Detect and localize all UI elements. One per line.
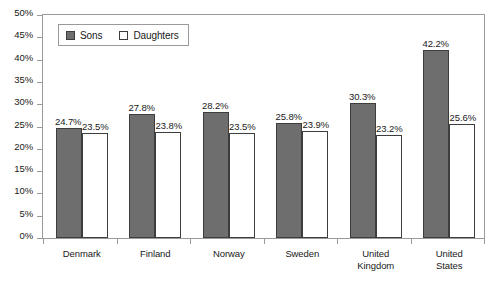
y-axis-tick-label: 5% — [19, 209, 33, 219]
bar-group: 27.8%23.8% — [129, 15, 181, 238]
x-axis-tick-mark — [117, 239, 118, 244]
bar-sons: 28.2% — [203, 112, 229, 238]
bar-value-label: 25.8% — [276, 111, 302, 122]
x-axis-category-label: Denmark — [45, 248, 119, 260]
legend-label-daughters: Daughters — [133, 30, 178, 41]
bar-daughters: 23.9% — [302, 131, 328, 238]
y-axis: 50%45%40%35%30%25%20%15%10%5%0% — [0, 14, 42, 239]
bar-sons: 42.2% — [423, 50, 449, 238]
x-axis-category-label: UnitedStates — [413, 248, 487, 272]
y-axis-tick-label: 45% — [14, 30, 33, 40]
y-axis-tick-label: 0% — [19, 231, 33, 241]
y-axis-tick-label: 10% — [14, 186, 33, 196]
x-axis-tick-mark — [484, 239, 485, 244]
x-axis-tick-mark — [264, 239, 265, 244]
bar-daughters: 23.2% — [376, 135, 402, 238]
y-axis-tick-label: 50% — [14, 8, 33, 18]
bar-value-label: 24.7% — [55, 116, 81, 127]
chart-legend: Sons Daughters — [58, 24, 189, 46]
plot-area: 24.7%23.5%27.8%23.8%28.2%23.5%25.8%23.9%… — [43, 15, 484, 238]
bar-group: 28.2%23.5% — [203, 15, 255, 238]
y-axis-tick-label: 25% — [14, 120, 33, 130]
x-axis-category-label: Sweden — [266, 248, 340, 260]
bar-value-label: 23.9% — [303, 119, 329, 130]
legend-label-sons: Sons — [80, 30, 102, 41]
legend-entry-sons: Sons — [66, 30, 102, 41]
bar-value-label: 42.2% — [423, 38, 449, 49]
bar-group: 42.2%25.6% — [423, 15, 475, 238]
bar-sons: 24.7% — [56, 128, 82, 238]
bar-daughters: 25.6% — [449, 124, 475, 238]
bar-value-label: 23.5% — [82, 121, 108, 132]
bar-daughters: 23.5% — [229, 133, 255, 238]
filled-gray-square-icon — [66, 31, 75, 40]
bar-daughters: 23.5% — [82, 133, 108, 238]
bar-value-label: 30.3% — [349, 91, 375, 102]
y-axis-tick-label: 15% — [14, 164, 33, 174]
x-axis: DenmarkFinlandNorwaySwedenUnitedKingdomU… — [42, 239, 485, 285]
y-axis-tick-label: 30% — [14, 97, 33, 107]
x-axis-tick-mark — [190, 239, 191, 244]
y-axis-tick-label: 35% — [14, 75, 33, 85]
x-axis-tick-mark — [337, 239, 338, 244]
bar-sons: 30.3% — [350, 103, 376, 238]
bar-value-label: 23.8% — [156, 120, 182, 131]
bar-group: 30.3%23.2% — [350, 15, 402, 238]
bar-daughters: 23.8% — [155, 132, 181, 238]
bar-value-label: 23.2% — [376, 123, 402, 134]
bar-sons: 27.8% — [129, 114, 155, 238]
bar-value-label: 25.6% — [450, 112, 476, 123]
open-white-square-icon — [119, 31, 128, 40]
bar-chart: 50%45%40%35%30%25%20%15%10%5%0% 24.7%23.… — [0, 0, 493, 285]
bar-group: 24.7%23.5% — [56, 15, 108, 238]
x-axis-tick-mark — [43, 239, 44, 244]
x-axis-category-label: Finland — [119, 248, 193, 260]
x-axis-category-label: Norway — [192, 248, 266, 260]
legend-entry-daughters: Daughters — [119, 30, 178, 41]
bar-value-label: 28.2% — [202, 100, 228, 111]
bar-sons: 25.8% — [276, 123, 302, 238]
bar-value-label: 27.8% — [129, 102, 155, 113]
bar-group: 25.8%23.9% — [276, 15, 328, 238]
x-axis-category-label: UnitedKingdom — [339, 248, 413, 272]
bar-value-label: 23.5% — [229, 121, 255, 132]
y-axis-tick-label: 20% — [14, 142, 33, 152]
y-axis-tick-label: 40% — [14, 53, 33, 63]
x-axis-tick-mark — [411, 239, 412, 244]
